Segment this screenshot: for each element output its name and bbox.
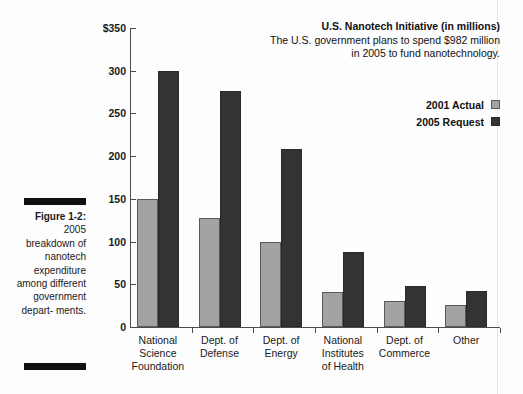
x-axis-group-label-line: Institutes bbox=[312, 347, 374, 360]
y-axis-tick-label: 300 bbox=[86, 66, 126, 76]
bar-request bbox=[466, 291, 487, 327]
x-axis-tick bbox=[377, 328, 378, 333]
y-axis-tick-label: 200 bbox=[86, 151, 126, 161]
y-axis-tick bbox=[130, 327, 136, 328]
figure-page: Figure 1-2: 2005 breakdown of nanotech e… bbox=[0, 0, 523, 394]
y-axis-tick-label: 250 bbox=[86, 108, 126, 118]
x-axis-group-label: Dept. ofCommerce bbox=[374, 334, 436, 360]
x-axis-group-label-line: Science bbox=[127, 347, 189, 360]
y-axis-tick-label-text: 100 bbox=[88, 237, 126, 247]
y-axis-tick-label: $350 bbox=[86, 23, 126, 33]
bar-request bbox=[343, 252, 364, 327]
x-axis-tick bbox=[500, 328, 501, 333]
x-axis-tick bbox=[253, 328, 254, 333]
bar-actual bbox=[384, 301, 405, 327]
x-axis-group-label-line: Dept. of bbox=[374, 334, 436, 347]
bar-actual bbox=[137, 199, 158, 327]
y-axis-tick-label-text: 300 bbox=[88, 66, 126, 76]
x-axis-group-label-line: Other bbox=[435, 334, 497, 347]
bar-actual bbox=[260, 242, 281, 327]
x-axis-group-label: Dept. ofDefense bbox=[189, 334, 251, 360]
y-axis-tick-label-text: 0 bbox=[88, 322, 126, 332]
x-axis-group-label: Other bbox=[435, 334, 497, 347]
x-axis-group-label-line: Energy bbox=[250, 347, 312, 360]
x-axis-group-label: Dept. ofEnergy bbox=[250, 334, 312, 360]
x-axis-tick bbox=[192, 328, 193, 333]
x-axis-group-label-line: Commerce bbox=[374, 347, 436, 360]
bar-request bbox=[158, 71, 179, 327]
y-axis-tick-label: 100 bbox=[86, 237, 126, 247]
bar-request bbox=[281, 149, 302, 327]
bar-chart: U.S. Nanotech Initiative (in millions) T… bbox=[0, 0, 523, 394]
x-axis-group-label: NationalInstitutesof Health bbox=[312, 334, 374, 374]
y-axis-tick-label-text: 200 bbox=[88, 151, 126, 161]
x-axis-group-label-line: Defense bbox=[189, 347, 251, 360]
y-axis-tick-label-text: 150 bbox=[88, 194, 126, 204]
x-axis-group-label-line: of Health bbox=[312, 360, 374, 373]
y-axis-tick-label: 0 bbox=[86, 322, 126, 332]
x-axis-group-label-line: Dept. of bbox=[250, 334, 312, 347]
x-axis-tick bbox=[315, 328, 316, 333]
y-axis-tick-label: 50 bbox=[86, 279, 126, 289]
x-axis-group-label-line: Dept. of bbox=[189, 334, 251, 347]
plot-area bbox=[130, 28, 500, 327]
bar-actual bbox=[445, 305, 466, 327]
x-axis-group-label: NationalScienceFoundation bbox=[127, 334, 189, 374]
x-axis-group-label-line: Foundation bbox=[127, 360, 189, 373]
y-axis-tick-label: 150 bbox=[86, 194, 126, 204]
y-axis-tick-label-text: $350 bbox=[88, 23, 126, 33]
bar-actual bbox=[322, 292, 343, 327]
bar-request bbox=[405, 286, 426, 327]
bar-actual bbox=[199, 218, 220, 327]
x-axis-tick bbox=[438, 328, 439, 333]
x-axis-group-label-line: National bbox=[127, 334, 189, 347]
y-axis-tick-label-text: 250 bbox=[88, 108, 126, 118]
bar-request bbox=[220, 91, 241, 327]
x-axis-group-label-line: National bbox=[312, 334, 374, 347]
y-axis-tick-label-text: 50 bbox=[88, 279, 126, 289]
